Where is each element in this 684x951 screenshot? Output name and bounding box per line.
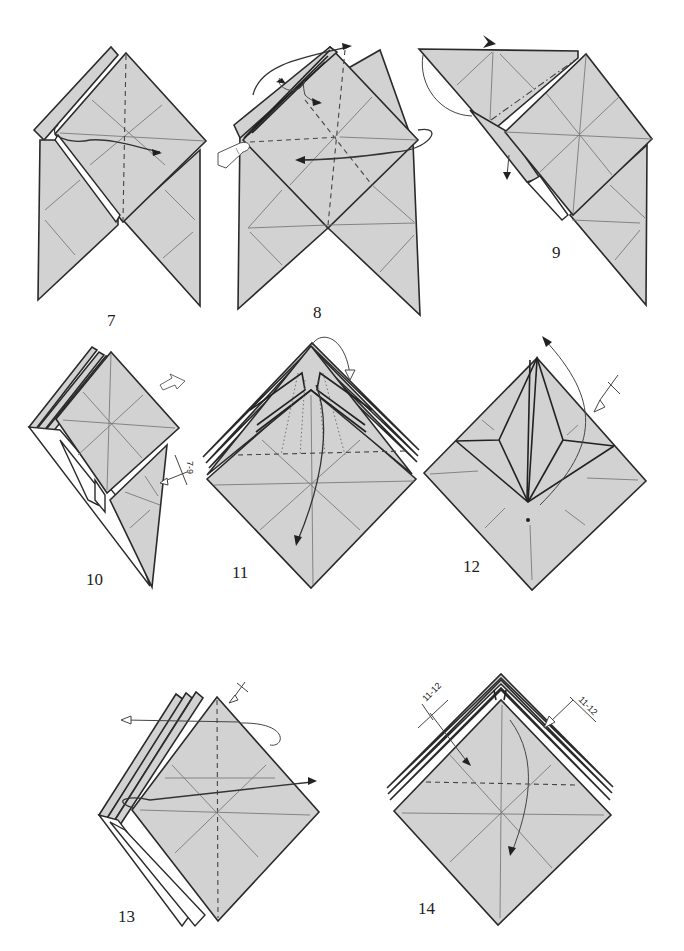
step-12-figure xyxy=(424,336,646,590)
repeat-steps-label: 7-9 xyxy=(185,461,195,474)
step-number-9: 9 xyxy=(552,243,561,263)
step-number-14: 14 xyxy=(418,899,435,919)
step-number-13: 13 xyxy=(118,907,135,927)
step-9-figure xyxy=(419,35,652,305)
step-number-8: 8 xyxy=(313,303,322,323)
push-arrow-icon xyxy=(483,35,496,48)
step-10-figure: 7-9 xyxy=(29,347,195,587)
step-11-figure xyxy=(203,337,419,588)
repeat-label-left: 11-12 xyxy=(420,681,443,704)
step-8-figure xyxy=(218,43,432,315)
origami-diagram-canvas: 7-9 xyxy=(0,0,684,951)
step-number-7: 7 xyxy=(107,311,116,331)
step-14-figure: 11-12 11-12 xyxy=(387,674,613,925)
step-number-11: 11 xyxy=(232,563,248,583)
step-number-10: 10 xyxy=(86,570,103,590)
step-number-12: 12 xyxy=(463,557,480,577)
turn-over-icon xyxy=(160,374,185,390)
step-13-figure xyxy=(99,682,319,926)
step-7-figure xyxy=(34,47,206,306)
